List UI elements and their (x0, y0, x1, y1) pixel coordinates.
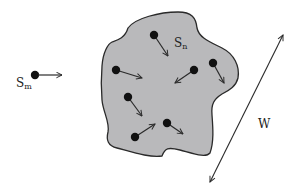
particle-dot-icon (209, 59, 217, 67)
particle-dot-icon (163, 119, 171, 127)
external-particle-sm (31, 71, 62, 79)
diagram-canvas: Sm Sn W (0, 0, 303, 193)
particle-dot-icon (131, 133, 139, 141)
region-sn-shape (101, 12, 238, 156)
label-sm: Sm (16, 76, 32, 91)
particle-dot-icon (124, 93, 132, 101)
particle-dot-icon (150, 31, 158, 39)
label-w: W (258, 117, 271, 131)
particle-dot-icon (190, 66, 198, 74)
particle-dot-icon (31, 71, 39, 79)
particle-dot-icon (112, 66, 120, 74)
